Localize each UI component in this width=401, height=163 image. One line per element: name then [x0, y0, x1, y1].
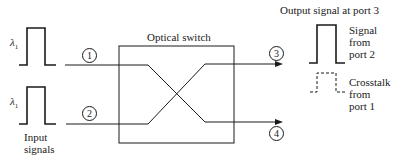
- port-2-marker: 2: [82, 106, 97, 121]
- crosstalk-pulse: [310, 73, 346, 92]
- switch-title: Optical switch: [147, 31, 211, 43]
- wavelength-label-input-2: λ1: [10, 95, 18, 110]
- crosstalk-label-line3: port 1: [349, 100, 375, 112]
- path-port2-to-port3: [66, 64, 278, 124]
- input-signals-label-line2: signals: [24, 143, 55, 155]
- signal-label-line3: port 2: [349, 48, 375, 60]
- signal-label-line2: from: [349, 36, 370, 48]
- lambda-subscript: 1: [15, 102, 19, 110]
- arrow-head-port3: [275, 61, 283, 67]
- signal-label-line1: Signal: [349, 24, 377, 36]
- output-panel-title: Output signal at port 3: [280, 4, 379, 16]
- crosstalk-label-line2: from: [349, 88, 370, 100]
- optical-switch-diagram: [0, 0, 401, 163]
- port-4-marker: 4: [269, 126, 284, 141]
- arrow-head-port4: [275, 119, 283, 125]
- port-1-marker: 1: [82, 48, 97, 63]
- lambda-subscript: 1: [15, 43, 19, 51]
- input-pulse-2: [19, 87, 56, 124]
- wavelength-label-input-1: λ1: [10, 36, 18, 51]
- port-3-marker: 3: [269, 46, 284, 61]
- crosstalk-label-line1: Crosstalk: [349, 76, 391, 88]
- input-pulse-1: [19, 28, 56, 65]
- input-signals-label-line1: Input: [24, 131, 47, 143]
- output-signal-pulse: [309, 25, 345, 63]
